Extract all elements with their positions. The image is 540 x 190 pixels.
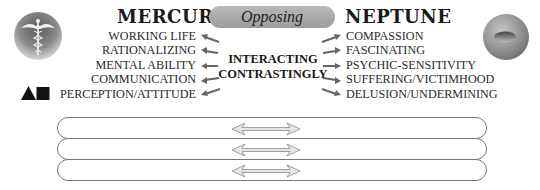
- right-arrows-icon: [319, 32, 343, 96]
- trait: COMPASSION: [346, 29, 498, 43]
- trait: DELUSION/UNDERMINING: [346, 87, 498, 101]
- interaction-row[interactable]: [57, 138, 487, 160]
- aspect-pill: Opposing: [209, 6, 335, 28]
- mercury-caduceus-icon: [13, 11, 63, 61]
- neptune-title: NEPTUNE: [345, 6, 451, 27]
- interaction-row[interactable]: [57, 159, 487, 181]
- interaction-label: INTERACTING CONTRASTINGLY: [212, 52, 334, 82]
- trait: WORKING LIFE: [60, 29, 196, 43]
- interaction-row[interactable]: [57, 117, 487, 139]
- trait: MENTAL ABILITY: [60, 58, 196, 72]
- trait: PSYCHIC-SENSITIVITY: [346, 58, 498, 72]
- interaction-line-2: CONTRASTINGLY: [212, 67, 334, 82]
- interaction-line-1: INTERACTING: [212, 52, 334, 67]
- triangle-square-icon: [21, 85, 51, 104]
- trait: FASCINATING: [346, 43, 498, 57]
- trait: COMMUNICATION: [60, 72, 196, 86]
- aspect-label: Opposing: [241, 8, 303, 26]
- neptune-traits: COMPASSION FASCINATING PSYCHIC-SENSITIVI…: [346, 29, 498, 101]
- mercury-traits: WORKING LIFE RATIONALIZING MENTAL ABILIT…: [60, 29, 196, 101]
- trait: RATIONALIZING: [60, 43, 196, 57]
- double-arrow-icon: [231, 122, 301, 136]
- trait: SUFFERING/VICTIMHOOD: [346, 72, 498, 86]
- trait: PERCEPTION/ATTITUDE: [60, 87, 196, 101]
- double-arrow-icon: [231, 143, 301, 157]
- double-arrow-icon: [231, 164, 301, 178]
- interaction-rows: [57, 117, 487, 181]
